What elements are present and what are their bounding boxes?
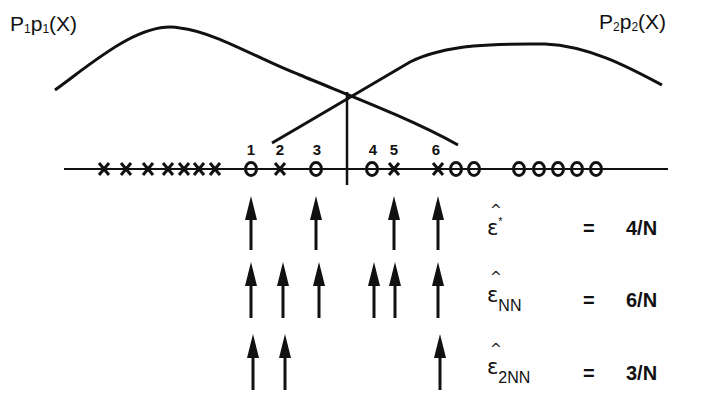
up-arrow-icon (388, 196, 400, 250)
error-arrows (245, 196, 446, 390)
nn-error-equals: = (583, 289, 595, 312)
error-index-6: 6 (432, 141, 440, 158)
class1-density-label: P1p1(X) (10, 12, 77, 36)
up-arrow-icon (368, 262, 380, 318)
up-arrow-icon (245, 196, 257, 250)
nn-error-value: 6/N (626, 289, 657, 312)
up-arrow-icon (310, 196, 322, 250)
error-index-3: 3 (313, 141, 321, 158)
up-arrow-icon (389, 262, 401, 318)
up-arrow-icon (432, 196, 444, 250)
2nn-error-equals: = (583, 362, 595, 385)
up-arrow-icon (313, 262, 325, 318)
2nn-error-estimate-label: ^ε2NN (487, 355, 530, 387)
class1-density-curve (55, 27, 458, 145)
diagram-canvas (0, 0, 703, 405)
bayes-error-estimate-label: ^ε* (487, 215, 503, 240)
bayes-error-equals: = (583, 217, 595, 240)
bayes-error-value: 4/N (626, 217, 657, 240)
nn-error-estimate-label: ^εNN (487, 283, 521, 315)
error-index-4: 4 (369, 141, 377, 158)
error-index-5: 5 (390, 141, 398, 158)
up-arrow-icon (279, 334, 291, 390)
error-index-2: 2 (276, 141, 284, 158)
up-arrow-icon (247, 334, 259, 390)
up-arrow-icon (277, 262, 289, 318)
up-arrow-icon (432, 262, 444, 318)
error-index-1: 1 (247, 141, 255, 158)
class2-density-label: P2p2(X) (599, 10, 666, 34)
up-arrow-icon (245, 262, 257, 318)
up-arrow-icon (434, 334, 446, 390)
class2-density-curve (272, 44, 662, 143)
error-estimation-diagram: P1p1(X) P2p2(X) 1 2 3 4 5 6 ^ε* = 4/N ^ε… (0, 0, 703, 405)
2nn-error-value: 3/N (626, 362, 657, 385)
